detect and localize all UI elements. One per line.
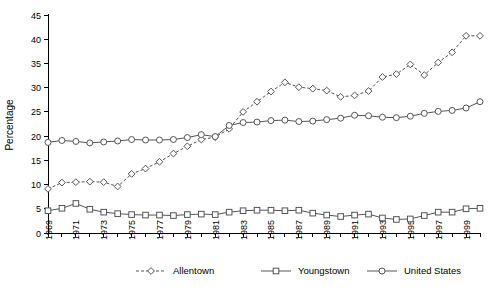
data-point-marker xyxy=(435,209,441,215)
data-point-marker xyxy=(268,207,274,213)
data-point-marker xyxy=(73,201,79,207)
data-point-marker xyxy=(393,71,400,78)
data-point-marker xyxy=(226,122,232,128)
legend-item-allentown[interactable]: Allentown xyxy=(136,265,214,276)
y-axis-tick-label: 35 xyxy=(31,59,41,69)
data-point-marker xyxy=(394,217,400,223)
x-axis-tick-label: 1991 xyxy=(350,220,360,240)
y-axis-tick-label: 15 xyxy=(31,156,41,166)
data-point-marker xyxy=(101,209,107,215)
x-axis-tick-label: 1987 xyxy=(294,220,304,240)
data-point-marker xyxy=(282,79,289,86)
y-axis-tick-label: 10 xyxy=(31,180,41,190)
data-point-marker xyxy=(379,268,385,274)
data-point-marker xyxy=(449,107,455,113)
data-point-marker xyxy=(309,85,316,92)
data-point-marker xyxy=(449,209,455,215)
series-united-states xyxy=(45,99,483,146)
data-point-marker xyxy=(198,132,204,138)
data-point-marker xyxy=(72,179,79,186)
x-axis-tick-label: 1995 xyxy=(406,220,416,240)
x-axis-tick-label: 1979 xyxy=(183,220,193,240)
chart-legend: AllentownYoungstownUnited States xyxy=(136,265,461,276)
data-point-marker xyxy=(463,206,469,212)
data-point-marker xyxy=(185,212,191,218)
data-point-marker xyxy=(421,213,427,219)
x-axis-tick-label: 1989 xyxy=(322,220,332,240)
y-axis-tick-label: 0 xyxy=(36,229,41,239)
x-axis-tick-label: 1985 xyxy=(266,220,276,240)
data-point-marker xyxy=(310,210,316,216)
y-axis-tick-label: 20 xyxy=(31,132,41,142)
data-point-marker xyxy=(338,115,344,121)
data-point-marker xyxy=(463,105,469,111)
data-point-marker xyxy=(379,74,386,81)
data-point-marker xyxy=(170,150,177,157)
x-axis-tick-label: 1993 xyxy=(378,220,388,240)
data-point-marker xyxy=(323,87,330,94)
data-point-marker xyxy=(198,211,204,217)
series-youngstown xyxy=(45,201,483,223)
data-point-marker xyxy=(379,114,385,120)
series-allentown xyxy=(45,32,484,192)
data-point-marker xyxy=(115,211,121,217)
legend-label: Youngstown xyxy=(298,265,349,276)
data-point-marker xyxy=(226,209,232,215)
series-path xyxy=(48,36,480,189)
x-axis-tick-label: 1973 xyxy=(99,220,109,240)
data-point-marker xyxy=(366,113,372,119)
data-point-marker xyxy=(156,137,162,143)
line-chart: 051015202530354045 196919711973197519771… xyxy=(0,0,501,290)
data-point-marker xyxy=(59,137,65,143)
x-axis-tick-label: 1975 xyxy=(127,220,137,240)
data-point-marker xyxy=(352,112,358,118)
data-point-marker xyxy=(268,118,274,124)
x-axis-tick-label: 1981 xyxy=(211,220,221,240)
data-point-marker xyxy=(129,137,135,143)
data-point-marker xyxy=(254,98,261,105)
series-path xyxy=(48,203,480,219)
data-point-marker xyxy=(212,212,218,218)
data-point-marker xyxy=(254,119,260,125)
x-axis-tick-label: 1971 xyxy=(71,220,81,240)
data-point-marker xyxy=(324,117,330,123)
data-point-marker xyxy=(240,208,246,214)
data-point-marker xyxy=(282,117,288,123)
data-point-marker xyxy=(240,120,246,126)
data-point-marker xyxy=(171,213,177,219)
data-point-marker xyxy=(273,268,279,274)
data-point-marker xyxy=(129,212,135,218)
chart-container: 051015202530354045 196919711973197519771… xyxy=(0,0,501,290)
data-point-marker xyxy=(268,88,275,95)
legend-label: Allentown xyxy=(173,265,214,276)
data-point-marker xyxy=(156,158,163,165)
data-point-marker xyxy=(45,186,52,193)
data-point-marker xyxy=(366,211,372,217)
data-point-marker xyxy=(184,143,191,150)
data-point-marker xyxy=(351,92,358,99)
y-axis-tick-label: 45 xyxy=(31,11,41,21)
data-point-marker xyxy=(407,113,413,119)
data-point-marker xyxy=(421,110,427,116)
series-path xyxy=(48,102,480,143)
y-axis: 051015202530354045 xyxy=(31,11,48,239)
legend-item-youngstown[interactable]: Youngstown xyxy=(261,265,349,276)
data-point-marker xyxy=(295,84,302,91)
data-point-marker xyxy=(45,208,51,214)
data-point-marker xyxy=(170,137,176,143)
y-axis-tick-label: 30 xyxy=(31,83,41,93)
legend-item-united-states[interactable]: United States xyxy=(367,265,461,276)
data-point-marker xyxy=(282,208,288,214)
data-point-marker xyxy=(477,32,484,39)
data-point-marker xyxy=(87,206,93,212)
data-point-marker xyxy=(477,99,483,105)
data-point-marker xyxy=(254,207,260,213)
x-axis-tick-label: 1999 xyxy=(462,220,472,240)
data-point-marker xyxy=(184,135,190,141)
data-point-marker xyxy=(101,139,107,145)
data-point-marker xyxy=(157,212,163,218)
data-point-marker xyxy=(100,179,107,186)
data-point-marker xyxy=(87,140,93,146)
x-axis-tick-label: 1997 xyxy=(434,220,444,240)
legend-label: United States xyxy=(404,265,461,276)
